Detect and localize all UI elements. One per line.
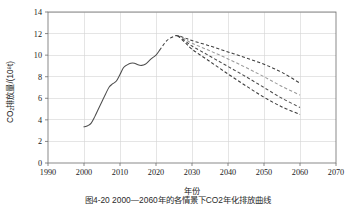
x-tick-label: 2020	[148, 168, 164, 177]
x-tick-label: 2030	[184, 168, 200, 177]
y-tick-label: 4	[38, 116, 42, 125]
x-tick-label: 2040	[220, 168, 236, 177]
x-tick-label: 2060	[292, 168, 308, 177]
y-tick-label: 14	[34, 8, 42, 17]
x-tick-label: 2050	[256, 168, 272, 177]
y-tick-label: 6	[38, 94, 42, 103]
y-tick-label: 12	[34, 30, 42, 39]
co2-emission-line-chart: 199020002010202020302040205020602070 024…	[0, 0, 356, 204]
x-axis-tick-labels: 199020002010202020302040205020602070	[40, 168, 344, 177]
figure-container: 199020002010202020302040205020602070 024…	[0, 0, 356, 204]
y-tick-label: 10	[34, 51, 42, 60]
figure-caption: 图4-20 2000—2060年的各情景下CO2年化排放曲线	[85, 195, 272, 204]
x-tick-label: 1990	[40, 168, 56, 177]
y-tick-label: 8	[38, 73, 42, 82]
x-tick-label: 2000	[76, 168, 92, 177]
y-axis-title: CO₂排放量/(10⁸t)	[5, 61, 15, 123]
x-tick-label: 2010	[112, 168, 128, 177]
x-tick-label: 2070	[328, 168, 344, 177]
y-tick-label: 0	[38, 159, 42, 168]
y-tick-label: 2	[38, 137, 42, 146]
